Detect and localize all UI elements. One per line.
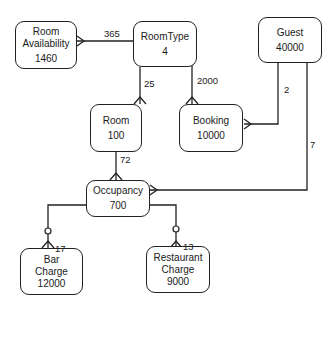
- entity-name: Room: [103, 115, 130, 127]
- entity-count: 40000: [276, 42, 304, 54]
- entity-booking[interactable]: Booking 10000: [179, 104, 243, 152]
- relationship-label: 17: [55, 243, 66, 254]
- entity-name: Room: [33, 26, 60, 38]
- entity-count: 4: [162, 46, 168, 58]
- entity-count: 1460: [35, 53, 57, 65]
- entity-name: Charge: [162, 264, 195, 276]
- entity-name: Charge: [35, 266, 68, 278]
- entity-name: Guest: [277, 27, 304, 39]
- entity-room-availability[interactable]: Room Availability 1460: [15, 21, 77, 69]
- relationship-label: 365: [104, 28, 120, 39]
- entity-count: 100: [108, 130, 125, 142]
- relationship-label: 72: [120, 154, 131, 165]
- entity-name: Restaurant: [154, 252, 203, 264]
- relationship-label: 2000: [197, 75, 218, 86]
- entity-count: 10000: [197, 130, 225, 142]
- entity-name: Bar: [44, 254, 60, 266]
- entity-name: Booking: [193, 115, 229, 127]
- entity-occupancy[interactable]: Occupancy 700: [86, 180, 150, 217]
- relationship-label: 2: [284, 84, 289, 95]
- entity-name: Availability: [22, 38, 69, 50]
- entity-count: 12000: [38, 278, 66, 290]
- entity-count: 700: [110, 200, 127, 212]
- entity-room[interactable]: Room 100: [90, 104, 142, 152]
- relationship-label: 25: [144, 78, 155, 89]
- entity-count: 9000: [167, 276, 189, 288]
- entity-name: Occupancy: [93, 185, 143, 197]
- entity-bar-charge[interactable]: Bar Charge 12000: [20, 248, 83, 295]
- entity-guest[interactable]: Guest 40000: [258, 17, 322, 63]
- entity-restaurant-charge[interactable]: Restaurant Charge 9000: [146, 246, 210, 293]
- entity-roomtype[interactable]: RoomType 4: [133, 21, 197, 67]
- relationship-label: 13: [183, 241, 194, 252]
- entity-name: RoomType: [141, 31, 189, 43]
- relationship-label: 7: [310, 139, 315, 150]
